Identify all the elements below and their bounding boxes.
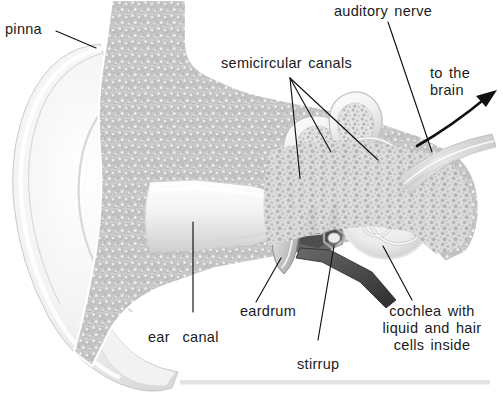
ear-anatomy-diagram: pinna semicircular canals auditory nerve… [0, 0, 503, 397]
bottom-shadow-band [180, 380, 490, 385]
label-pinna: pinna [5, 21, 42, 38]
leader-eardrum [256, 258, 281, 302]
label-stirrup: stirrup [297, 356, 339, 373]
label-semicircular-canals: semicircular canals [221, 55, 352, 72]
label-cochlea: cochlea with liquid and hair cells insid… [373, 303, 491, 354]
label-ear-canal: ear canal [148, 329, 219, 346]
label-auditory-nerve: auditory nerve [334, 3, 432, 20]
leader-pinna [56, 31, 96, 48]
label-eardrum: eardrum [240, 303, 296, 320]
label-to-the-brain: to the brain [430, 65, 470, 99]
